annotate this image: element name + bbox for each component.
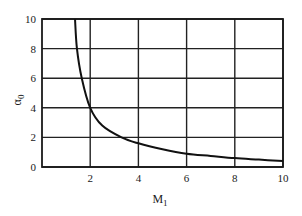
y-tick-label: 2 (31, 131, 37, 143)
x-axis-label-sub: 1 (163, 198, 168, 208)
chart-canvas: 0246810 246810 α0 M1 (0, 0, 302, 216)
x-tick-label: 6 (184, 172, 190, 184)
grid-lines (42, 19, 283, 167)
x-tick-label: 10 (278, 172, 290, 184)
y-tick-label: 8 (31, 43, 37, 55)
y-tick-label: 6 (31, 72, 37, 84)
y-tick-label: 10 (25, 13, 37, 25)
series-line (75, 19, 283, 161)
y-tick-label: 0 (31, 161, 37, 173)
x-tick-label: 8 (232, 172, 238, 184)
plot-frame (42, 19, 283, 167)
y-axis-label-sub: 0 (16, 94, 26, 99)
svg-text:α0: α0 (10, 94, 26, 105)
data-curve (75, 19, 283, 161)
x-tick-label: 2 (87, 172, 93, 184)
plot-border (42, 19, 283, 167)
x-axis-label-main: M (152, 192, 163, 206)
x-axis-ticks: 246810 (87, 172, 289, 184)
y-axis-ticks: 0246810 (25, 13, 37, 173)
y-tick-label: 4 (31, 102, 37, 114)
svg-text:M1: M1 (152, 192, 167, 208)
y-axis-label: α0 (10, 94, 26, 105)
x-tick-label: 4 (136, 172, 142, 184)
x-axis-label: M1 (152, 192, 167, 208)
